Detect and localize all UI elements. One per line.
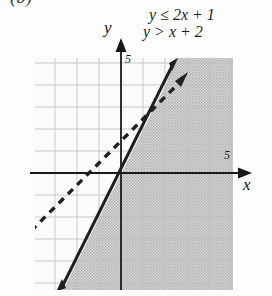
scan-grain [35, 58, 233, 290]
x-axis-label: x [243, 175, 251, 195]
dashed-line-arrow-lower [12, 236, 25, 250]
x-axis-tick-5: 5 [224, 148, 230, 163]
y-axis-tick-5: 5 [125, 52, 131, 67]
coordinate-plane [0, 0, 272, 296]
inequality-graph-figure: (b) y ≤ 2x + 1 y > x + 2 [0, 0, 272, 296]
y-axis-label: y [104, 18, 112, 38]
y-axis-arrow [116, 38, 127, 52]
